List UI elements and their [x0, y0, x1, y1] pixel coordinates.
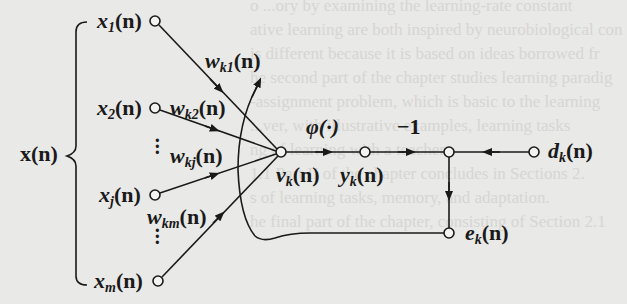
- label-dk: dk(n): [548, 140, 593, 165]
- ellipsis-lower: ···: [154, 227, 160, 245]
- label-yk: yk(n): [340, 164, 384, 189]
- label-x1: x1(n): [97, 10, 142, 35]
- label-activation: φ(·): [306, 116, 339, 138]
- node-yk: [360, 147, 370, 157]
- node-x1: [150, 16, 160, 26]
- node-dk: [529, 147, 539, 157]
- label-ek: ek(n): [465, 222, 509, 247]
- input-vector-label: x(n): [20, 143, 58, 165]
- label-xm: xm(n): [94, 270, 143, 295]
- node-ek: [444, 228, 454, 238]
- node-xm: [153, 276, 163, 286]
- label-x2: x2(n): [97, 97, 142, 122]
- node-xj: [150, 190, 160, 200]
- label-vk: vk(n): [276, 164, 320, 189]
- ellipsis-upper: ···: [154, 137, 160, 155]
- label-negation-gain: −1: [397, 116, 421, 138]
- node-x2: [150, 103, 160, 113]
- label-xj: xj(n): [99, 184, 141, 209]
- input-vector-brace: [67, 22, 87, 285]
- node-vk: [276, 147, 286, 157]
- label-wk2: wk2(n): [170, 97, 226, 122]
- label-wkj: wkj(n): [170, 145, 222, 170]
- node-sum: [444, 147, 454, 157]
- label-wk1: wk1(n): [205, 50, 261, 75]
